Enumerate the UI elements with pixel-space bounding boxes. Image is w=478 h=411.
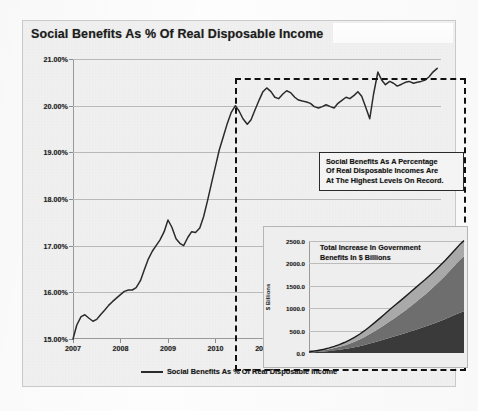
y-axis-tick-label: 21.00% [44,55,68,64]
inset-title-line-1: Total Increase In Government [320,243,460,253]
x-axis-tick-mark [215,339,216,343]
legend: Social Benefits As % Of Real Disposable … [23,367,455,376]
y-axis-tick-label: 20.00% [44,101,68,110]
legend-label: Social Benefits As % Of Real Disposable … [167,367,337,376]
y-axis-tick-label: 17.00% [44,241,68,250]
inset-title: Total Increase In Government Benefits In… [320,243,460,263]
scan-glare [333,23,453,43]
callout-line-3: At The Highest Levels On Record. [326,176,457,185]
inset-y-axis-tick-label: 1000.0 [286,305,305,312]
legend-line-swatch [141,371,163,373]
x-axis-tick-label: 2008 [112,344,128,353]
y-axis-tick-label: 15.00% [44,335,68,344]
inset-y-axis-tick-label: 2500.0 [286,238,305,245]
y-axis-tick-label: 18.00% [44,195,68,204]
x-axis-tick-mark [168,339,169,343]
inset-y-axis-label: $ Billions [265,284,271,311]
callout-line-2: Of Real Disposable Incomes Are [326,166,457,175]
inset-y-axis-tick-label: 500.0 [290,327,305,334]
chart-panel: Social Benefits As % Of Real Disposable … [22,20,456,387]
scanned-page: Social Benefits As % Of Real Disposable … [0,0,478,411]
inset-y-axis-tick-label: 0.0 [296,350,305,357]
highlight-callout: Social Benefits As A Percentage Of Real … [319,152,464,191]
x-axis-tick-label: 2009 [160,344,176,353]
inset-chart: $ Billions 0.0500.01000.01500.02000.0250… [263,226,468,368]
x-axis-tick-label: 2010 [207,344,223,353]
y-axis-tick-label: 19.00% [44,148,68,157]
inset-title-line-2: Benefits In $ Billions [320,253,460,263]
x-axis-tick-mark [120,339,121,343]
x-axis-tick-label: 2007 [65,344,81,353]
callout-line-1: Social Benefits As A Percentage [326,157,457,166]
inset-y-axis-tick-label: 1500.0 [286,282,305,289]
inset-y-axis-tick-label: 2000.0 [286,260,305,267]
y-axis-tick-label: 16.00% [44,288,68,297]
page-title: Social Benefits As % Of Real Disposable … [31,27,323,41]
